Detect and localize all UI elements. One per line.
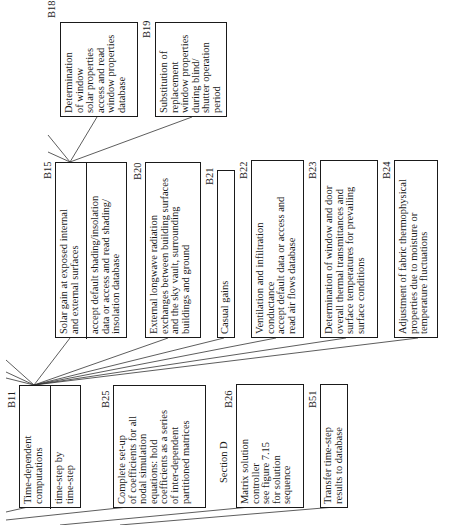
label-b18: B18 bbox=[46, 0, 57, 18]
box-b19-text: Substitution of replacement window prope… bbox=[156, 23, 226, 118]
section-d-label: Section D bbox=[218, 441, 229, 483]
box-b25-text: Complete set-up of coefficients for all … bbox=[114, 386, 194, 509]
box-b22-text: Ventilation and infiltration conductance… bbox=[252, 161, 300, 339]
box-b20: External longwave radiation exchanges be… bbox=[145, 162, 201, 338]
box-b15: Solar gain at exposed internal and exter… bbox=[55, 162, 127, 338]
box-b25: Complete set-up of coefficients for all … bbox=[113, 385, 206, 508]
label-b15: B15 bbox=[42, 161, 53, 179]
box-b18-text: Determination of window solar properties… bbox=[61, 23, 131, 118]
box-b24-text: Adjustment of fabric thermophysical prop… bbox=[395, 161, 433, 339]
label-b21: B21 bbox=[204, 167, 215, 185]
box-b26-text: Matrix solution controller see figure 7.… bbox=[237, 385, 296, 509]
box-b11-text: Time-dependent computations bbox=[20, 386, 50, 509]
box-b51-text: Transfer time-step results to database bbox=[321, 385, 346, 509]
label-b19: B19 bbox=[141, 20, 152, 38]
label-b24: B24 bbox=[381, 161, 392, 179]
box-b18: Determination of window solar properties… bbox=[60, 22, 138, 117]
label-b25: B25 bbox=[100, 390, 111, 408]
box-b21: Casual gains bbox=[217, 170, 235, 338]
box-b20-text: External longwave radiation exchanges be… bbox=[146, 163, 194, 339]
box-b51: Transfer time-step results to database bbox=[320, 384, 348, 508]
box-b15-subtext: accept default shading/insolation data o… bbox=[86, 163, 125, 339]
box-b23: Determination of window and door overall… bbox=[320, 160, 378, 338]
box-b24: Adjustment of fabric thermophysical prop… bbox=[394, 160, 438, 338]
box-b19: Substitution of replacement window prope… bbox=[155, 22, 227, 117]
box-b11: Time-dependent computations time-step by… bbox=[19, 385, 81, 508]
label-b23: B23 bbox=[307, 161, 318, 179]
box-b23-text: Determination of window and door overall… bbox=[321, 161, 369, 339]
box-b22: Ventilation and infiltration conductance… bbox=[251, 160, 304, 338]
label-b11: B11 bbox=[6, 391, 17, 408]
label-b26: B26 bbox=[223, 390, 234, 408]
label-b51: B51 bbox=[307, 390, 318, 408]
box-b15-text: Solar gain at exposed internal and exter… bbox=[56, 163, 86, 339]
box-b11-subtext: time-step by time-step bbox=[50, 386, 78, 509]
box-b21-text: Casual gains bbox=[218, 171, 233, 339]
label-b22: B22 bbox=[238, 161, 249, 179]
label-b20: B20 bbox=[132, 162, 143, 180]
box-b26: Matrix solution controller see figure 7.… bbox=[236, 384, 304, 508]
